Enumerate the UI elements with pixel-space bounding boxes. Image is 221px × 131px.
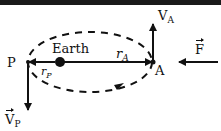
point-p-label: P — [7, 56, 16, 69]
point-a-label: A — [155, 64, 164, 77]
r-a-subscript: A — [122, 53, 129, 63]
v-a-base: V — [158, 8, 167, 23]
v-p-label: VP — [5, 113, 20, 126]
v-a-subscript: A — [167, 15, 174, 25]
earth-dot — [55, 57, 65, 67]
v-a-label: VA — [158, 9, 174, 22]
earth-label: Earth — [52, 42, 89, 55]
r-p-label: rP — [41, 66, 52, 77]
orbit-diagram-canvas — [0, 0, 221, 131]
force-label: F — [195, 43, 204, 56]
v-p-subscript: P — [14, 119, 20, 129]
force-label-text: F — [195, 43, 204, 56]
r-a-label: rA — [116, 47, 129, 60]
v-p-base: V — [5, 113, 14, 126]
r-p-subscript: P — [46, 71, 51, 80]
